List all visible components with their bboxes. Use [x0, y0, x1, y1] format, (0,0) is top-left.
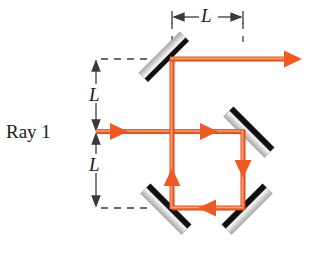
- mirror-middle-right-surface: [224, 111, 271, 158]
- dimension-arrow-up-1: [92, 61, 100, 71]
- ray-left-vertical: [170, 59, 175, 209]
- dimension-label-upper: L: [89, 85, 100, 104]
- dimension-label-top: L: [201, 6, 212, 25]
- mirror-top-left-surface: [139, 32, 186, 79]
- arrow-bottom-left: [198, 200, 216, 217]
- ray-1-label: Ray 1: [6, 122, 51, 141]
- dimension-arrow-left: [174, 13, 184, 21]
- dimension-arrow-right: [231, 13, 241, 21]
- mirror-bottom-left-surface: [141, 188, 188, 235]
- mirror-bottom-right-surface: [226, 188, 273, 235]
- arrow-top-exit: [284, 51, 302, 68]
- arrow-right-down: [235, 160, 252, 178]
- dimension-arrow-down-2: [92, 196, 100, 206]
- optics-ray-diagram: Ray 1 L L L: [0, 0, 311, 255]
- ray-top-outgoing: [170, 57, 292, 62]
- arrow-left-up: [164, 168, 181, 186]
- arrow-incoming-2: [200, 123, 218, 140]
- dimension-label-lower: L: [89, 155, 100, 174]
- dimension-lines: [92, 11, 243, 206]
- dimension-arrow-down-1: [92, 120, 100, 130]
- arrow-incoming-1: [110, 123, 128, 140]
- dimension-arrow-up-2: [92, 134, 100, 144]
